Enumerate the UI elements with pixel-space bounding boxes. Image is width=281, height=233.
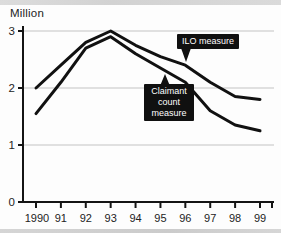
bottom-strip [0,229,281,233]
ilo-callout-pointer [181,48,191,62]
y-tick-label: 3 [9,25,15,37]
x-tick-label: 94 [129,212,141,224]
chart: Million 01231990919293949596979899 ILO m… [0,0,281,233]
x-tick-label: 99 [254,212,266,224]
ilo-measure-callout: ILO measure [177,34,239,49]
x-tick-label: 91 [55,212,67,224]
x-tick-label: 96 [179,212,191,224]
x-tick-label: 93 [105,212,117,224]
claimant-count-callout: Claimant count measure [144,84,194,121]
x-tick-label: 97 [204,212,216,224]
x-tick-label: 95 [154,212,166,224]
y-tick-label: 0 [9,196,15,208]
x-tick-label: 92 [80,212,92,224]
x-tick-label: 1990 [25,212,49,224]
y-tick-label: 2 [9,82,15,94]
y-tick-label: 1 [9,139,15,151]
x-tick-label: 98 [229,212,241,224]
